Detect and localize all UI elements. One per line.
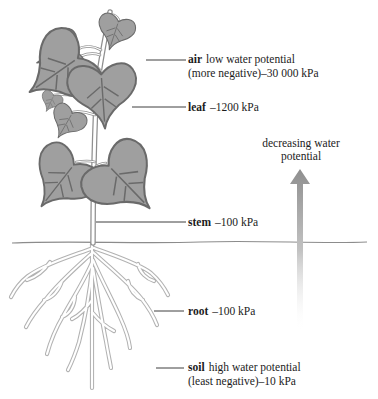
ground-line — [12, 241, 367, 243]
label-air-line1: airlow water potential — [188, 53, 319, 67]
label-soil-line2: (least negative)–10 kPa — [188, 375, 301, 389]
label-soil-rest: high water potential — [209, 361, 301, 373]
label-root: root–100 kPa — [188, 305, 255, 319]
label-root-rest: –100 kPa — [212, 305, 255, 317]
leaves — [8, 11, 176, 234]
label-leaf: leaf–1200 kPa — [188, 101, 259, 115]
label-leaf-rest: –1200 kPa — [210, 101, 259, 113]
label-leaf-line1: leaf–1200 kPa — [188, 101, 259, 115]
up-arrow-icon — [290, 169, 310, 332]
label-leaf-term: leaf — [188, 101, 206, 113]
arrow-label-line2: potential — [253, 150, 349, 163]
arrow-label-line1: decreasing water — [253, 137, 349, 150]
label-root-line1: root–100 kPa — [188, 305, 255, 319]
label-air-rest: low water potential — [206, 53, 295, 65]
label-stem-rest: –100 kPa — [215, 216, 258, 228]
label-soil-term: soil — [188, 361, 205, 373]
arrow-label: decreasing water potential — [253, 137, 349, 163]
label-soil-line1: soilhigh water potential — [188, 361, 301, 375]
label-stem-term: stem — [188, 216, 211, 228]
label-stem-line1: stem–100 kPa — [188, 216, 258, 230]
label-soil: soilhigh water potential (least negative… — [188, 361, 301, 388]
label-root-term: root — [188, 305, 208, 317]
roots — [11, 244, 168, 388]
label-stem: stem–100 kPa — [188, 216, 258, 230]
water-potential-diagram: airlow water potential (more negative)–3… — [0, 0, 378, 399]
label-air-line2: (more negative)–30 000 kPa — [188, 67, 319, 81]
label-air-term: air — [188, 53, 202, 65]
label-air: airlow water potential (more negative)–3… — [188, 53, 319, 80]
